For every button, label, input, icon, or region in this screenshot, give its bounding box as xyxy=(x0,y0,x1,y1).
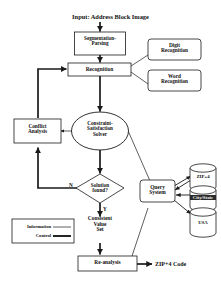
page-title: Input: Address Block Image xyxy=(0,13,221,20)
node-query-system-shape[interactable] xyxy=(140,180,175,202)
node-conflict-analysis-shape[interactable] xyxy=(14,119,61,143)
database-zip4-label: ZIP+4 xyxy=(190,174,216,179)
edge-label-no-branch: N xyxy=(69,182,73,188)
edge-recognition-word-recognition xyxy=(131,72,148,84)
edge-label-yes-branch: Y xyxy=(103,206,107,212)
legend-item-information-label: Information xyxy=(14,224,51,229)
legend-item-control-label: Control xyxy=(14,233,51,238)
edge-conflict-analysis-to-recognition xyxy=(38,69,67,118)
node-recognition-shape[interactable] xyxy=(68,63,131,76)
database-usa-label: USA xyxy=(190,220,216,225)
edge-query-system-to-usa-db xyxy=(174,200,191,214)
node-digit-recognition-shape[interactable] xyxy=(148,39,201,60)
edge-recognition-digit-recognition xyxy=(131,55,148,66)
output-zip4-code-label: ZIP+4 Code xyxy=(155,261,186,267)
edge-query-system-to-zip4-db xyxy=(174,176,191,186)
edge-reanalysis-to-query-system xyxy=(132,208,148,256)
edge-zip4-db-to-query-system xyxy=(175,180,191,190)
node-csp-solver-shape[interactable] xyxy=(72,112,129,150)
edge-solver-to-query-system xyxy=(126,126,150,181)
node-solution-found-shape[interactable] xyxy=(76,174,124,203)
legend-box xyxy=(12,219,74,243)
diagram-edges-layer xyxy=(0,0,221,282)
node-segmentation-parsing-shape[interactable] xyxy=(75,32,126,55)
diagram-canvas: Input: Address Block Image Segmentation-… xyxy=(0,0,221,282)
node-re-analysis-shape[interactable] xyxy=(78,256,137,271)
node-word-recognition-shape[interactable] xyxy=(148,70,201,91)
database-citystate-label: City/State xyxy=(190,195,216,200)
